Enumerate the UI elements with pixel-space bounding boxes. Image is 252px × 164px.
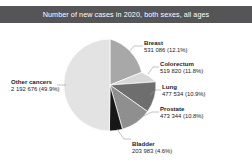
pie-label-breast-value: 531 086 (12.1%) [144,47,188,54]
pie-label-colorectum: Colorectum 519 820 (11.8%) [160,61,203,74]
leader-line-bladder [117,129,131,139]
pie-label-other-cancers-name: Other cancers [11,79,59,86]
pie-label-bladder-value: 203 983 (4.6%) [132,148,172,155]
chart-page: Number of new cases in 2020, both sexes,… [0,0,252,164]
pie-label-lung-value: 477 534 (10.9%) [162,91,206,98]
pie-label-bladder: Bladder 203 983 (4.6%) [132,141,172,154]
pie-label-colorectum-value: 519 820 (11.8%) [160,68,203,75]
pie-label-colorectum-name: Colorectum [160,61,203,68]
pie-label-other-cancers-value: 2 192 676 (49.9%) [11,86,59,93]
pie-label-breast: Breast 531 086 (12.1%) [144,40,188,53]
pie-label-breast-name: Breast [144,40,188,47]
chart-title-bar: Number of new cases in 2020, both sexes,… [0,6,252,23]
pie-label-other-cancers: Other cancers 2 192 676 (49.9%) [11,79,59,92]
pie-slice-other-cancers[interactable] [64,39,110,131]
pie-label-bladder-name: Bladder [132,141,172,148]
pie-label-lung: Lung 477 534 (10.9%) [162,84,206,97]
leader-line-colorectum [148,67,159,74]
pie-slices [64,39,156,131]
pie-chart-plot-area: Breast 531 086 (12.1%) Colorectum 519 82… [0,23,252,164]
pie-label-prostate-value: 473 344 (10.8%) [160,113,204,120]
pie-label-prostate-name: Prostate [160,106,204,113]
pie-chart-svg [0,23,252,164]
pie-label-lung-name: Lung [162,84,206,91]
chart-title: Number of new cases in 2020, both sexes,… [43,10,210,19]
pie-label-prostate: Prostate 473 344 (10.8%) [160,106,204,119]
